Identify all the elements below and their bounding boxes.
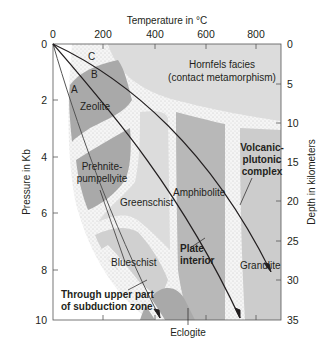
x-axis-title: Temperature in °C xyxy=(127,15,208,26)
svg-text:0: 0 xyxy=(287,38,293,50)
x-axis-tick-labels: 0 200 400 600 800 xyxy=(50,28,265,40)
facies-label-eclogite: Eclogite xyxy=(170,327,206,338)
annotation-plate: Plate xyxy=(180,243,204,254)
facies-label-granulite: Granulite xyxy=(240,260,281,271)
svg-text:8: 8 xyxy=(41,264,47,276)
y-axis-right-title: Depth in kilometers xyxy=(306,139,317,225)
svg-text:6: 6 xyxy=(41,207,47,219)
facies-label-hornfels: Hornfels facies xyxy=(189,59,255,70)
svg-text:30: 30 xyxy=(287,274,299,286)
svg-text:20: 20 xyxy=(287,195,299,207)
metamorphic-facies-diagram: Temperature in °C 0 200 400 600 800 Pres… xyxy=(0,0,331,353)
facies-label-blueschist: Blueschist xyxy=(111,257,157,268)
facies-label-greenschist: Greenschist xyxy=(120,197,174,208)
svg-text:4: 4 xyxy=(41,151,47,163)
facies-label-hornfels-sub: (contact metamorphism) xyxy=(168,72,276,83)
y-axis-left-tick-labels: 0 2 4 6 8 10 xyxy=(35,38,47,326)
svg-text:10: 10 xyxy=(35,314,47,326)
annotation-volcanic: Volcanic- xyxy=(240,142,284,153)
svg-text:25: 25 xyxy=(287,235,299,247)
gradient-label-b: B xyxy=(91,69,98,80)
svg-text:800: 800 xyxy=(247,28,265,40)
facies-label-zeolite: Zeolite xyxy=(80,101,110,112)
annotation-subduction-zone: of subduction zone xyxy=(61,301,153,312)
y-axis-right-tick-labels: 0 5 10 15 20 25 30 35 xyxy=(287,38,299,326)
svg-text:200: 200 xyxy=(94,28,112,40)
svg-text:35: 35 xyxy=(287,314,299,326)
annotation-plutonic: plutonic xyxy=(243,154,282,165)
svg-text:5: 5 xyxy=(287,78,293,90)
svg-text:0: 0 xyxy=(41,38,47,50)
annotation-complex: complex xyxy=(242,166,283,177)
gradient-label-a: A xyxy=(71,84,78,95)
svg-text:2: 2 xyxy=(41,94,47,106)
annotation-subduction: Through upper part xyxy=(61,289,154,300)
svg-text:15: 15 xyxy=(287,156,299,168)
svg-text:10: 10 xyxy=(287,117,299,129)
gradient-label-c: C xyxy=(88,51,95,62)
facies-label-prehnite: Prehnite- xyxy=(82,161,123,172)
svg-text:400: 400 xyxy=(146,28,164,40)
amphibolite-region xyxy=(176,112,225,320)
svg-text:0: 0 xyxy=(50,28,56,40)
annotation-interior: interior xyxy=(180,255,215,266)
facies-label-pumpellyite: pumpellyite xyxy=(77,173,128,184)
y-axis-left-title: Pressure in Kb xyxy=(21,149,32,215)
facies-label-amphibolite: Amphibolite xyxy=(173,187,226,198)
svg-text:600: 600 xyxy=(197,28,215,40)
